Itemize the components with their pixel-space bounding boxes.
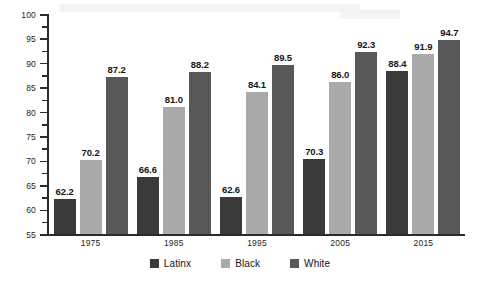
x-axis-labels: 19751985199520052015 [49,238,465,248]
bar-value-label: 70.2 [82,147,100,158]
y-axis-tick-label: 75 [26,132,36,142]
x-axis-spine [47,234,465,236]
legend-swatch-icon [150,259,159,268]
y-axis-tick-label: 55 [26,230,36,240]
bar-black-1975[interactable] [80,160,102,234]
bar-value-label: 84.1 [248,79,266,90]
bar-column: 81.0 [163,14,185,234]
y-axis-tick: 65 [40,185,47,187]
y-axis-minor-tick [42,173,47,175]
bar-latinx-2005[interactable] [303,159,325,234]
bar-column: 66.6 [137,14,159,234]
legend-swatch-icon [290,259,299,268]
bar-black-1995[interactable] [246,92,268,234]
y-axis-tick: 85 [40,87,47,89]
x-axis-tick-label: 2005 [299,238,382,248]
bar-white-2015[interactable] [438,40,460,234]
bar-column: 89.5 [272,14,294,234]
y-axis-tick: 60 [40,210,47,212]
chart-legend: LatinxBlackWhite [0,258,480,269]
bar-black-2005[interactable] [329,82,351,234]
bar-group: 66.681.088.2 [132,14,215,234]
bar-latinx-1985[interactable] [137,177,159,234]
bar-latinx-1975[interactable] [54,199,76,234]
bar-value-label: 94.7 [440,27,458,38]
y-axis-tick: 90 [40,63,47,65]
bar-black-2015[interactable] [412,54,434,234]
bar-latinx-2015[interactable] [386,71,408,234]
y-axis-tick: 55 [40,234,47,236]
bar-groups: 62.270.287.266.681.088.262.684.189.570.3… [49,14,465,234]
bar-column: 91.9 [412,14,434,234]
y-axis-tick-label: 65 [26,181,36,191]
bar-white-2005[interactable] [355,52,377,234]
bar-value-label: 62.6 [222,184,240,195]
x-axis-tick-label: 2015 [382,238,465,248]
scan-artifact [60,4,360,12]
legend-label: Black [235,258,260,269]
bar-value-label: 91.9 [414,41,432,52]
bar-group: 70.386.092.3 [299,14,382,234]
x-axis-tick-label: 1995 [215,238,298,248]
y-axis-minor-tick [42,51,47,53]
bar-column: 94.7 [438,14,460,234]
legend-item-black[interactable]: Black [221,258,260,269]
bar-white-1975[interactable] [106,77,128,234]
bar-value-label: 92.3 [357,39,375,50]
bar-value-label: 86.0 [331,69,349,80]
bar-black-1985[interactable] [163,107,185,234]
bar-column: 62.6 [220,14,242,234]
legend-label: Latinx [164,258,191,269]
bar-column: 70.2 [80,14,102,234]
y-axis-tick-label: 80 [26,108,36,118]
y-axis-tick-label: 90 [26,59,36,69]
bar-value-label: 88.2 [191,59,209,70]
y-axis-minor-tick [42,75,47,77]
bar-group: 62.684.189.5 [215,14,298,234]
legend-item-white[interactable]: White [290,258,330,269]
bar-value-label: 87.2 [108,64,126,75]
bar-column: 88.4 [386,14,408,234]
x-axis-tick-label: 1975 [49,238,132,248]
bar-chart: 556065707580859095100 62.270.287.266.681… [0,0,480,286]
bar-latinx-1995[interactable] [220,197,242,234]
legend-label: White [304,258,330,269]
bar-column: 62.2 [54,14,76,234]
bar-white-1985[interactable] [189,72,211,234]
legend-swatch-icon [221,259,230,268]
y-axis-tick-label: 100 [21,10,36,20]
bar-value-label: 62.2 [56,186,74,197]
y-axis-tick-label: 60 [26,205,36,215]
bar-column: 70.3 [303,14,325,234]
bar-value-label: 81.0 [165,94,183,105]
bar-column: 86.0 [329,14,351,234]
plot-area: 556065707580859095100 62.270.287.266.681… [47,14,465,236]
bar-value-label: 70.3 [305,146,323,157]
bar-value-label: 66.6 [139,164,157,175]
bar-column: 88.2 [189,14,211,234]
y-axis-minor-tick [42,222,47,224]
y-axis-tick: 70 [40,161,47,163]
y-axis-tick: 75 [40,136,47,138]
y-axis-tick: 80 [40,112,47,114]
y-axis-tick-label: 70 [26,156,36,166]
y-axis-minor-tick [42,100,47,102]
bar-value-label: 89.5 [274,52,292,63]
bar-white-1995[interactable] [272,65,294,234]
y-axis-tick: 95 [40,38,47,40]
y-axis-minor-tick [42,197,47,199]
y-axis-minor-tick [42,124,47,126]
y-axis-minor-tick [42,148,47,150]
x-axis-tick-label: 1985 [132,238,215,248]
bar-value-label: 88.4 [388,58,406,69]
y-axis-tick-label: 85 [26,83,36,93]
legend-item-latinx[interactable]: Latinx [150,258,191,269]
bar-group: 88.491.994.7 [382,14,465,234]
bar-column: 87.2 [106,14,128,234]
y-axis-minor-tick [42,26,47,28]
bar-group: 62.270.287.2 [49,14,132,234]
bar-column: 84.1 [246,14,268,234]
y-axis-tick: 100 [40,14,47,16]
y-axis-tick-label: 95 [26,34,36,44]
bar-column: 92.3 [355,14,377,234]
